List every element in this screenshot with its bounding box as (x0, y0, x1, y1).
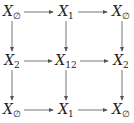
node-x1-top: X1 (58, 4, 74, 21)
node-x12-center: X12 (55, 53, 76, 70)
node-x-empty-bottom-right: X∅ (112, 102, 130, 119)
node-x-empty-top-right: X∅ (112, 4, 130, 21)
node-x-empty-top-left: X∅ (3, 4, 21, 21)
node-x-empty-bottom-left: X∅ (3, 102, 21, 119)
node-x2-mid-right: X2 (113, 53, 129, 70)
node-x2-mid-left: X2 (4, 53, 20, 70)
node-x1-bottom: X1 (58, 102, 74, 119)
